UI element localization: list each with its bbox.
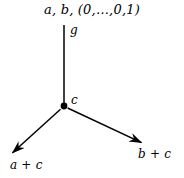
vertex-label: c [71, 94, 78, 106]
top-label: a, b, (0,…,0,1) [0, 3, 184, 16]
right-arrow-label: b + c [138, 148, 171, 160]
vertex-dot [61, 103, 68, 110]
vertical-edge-label: g [70, 24, 78, 36]
left-arrow-label: a + c [10, 159, 43, 171]
vector-tree-diagram: a, b, (0,…,0,1) g c a + c b + c [0, 0, 184, 178]
right-arrow-edge [68, 108, 142, 143]
left-arrow-edge [13, 109, 61, 153]
